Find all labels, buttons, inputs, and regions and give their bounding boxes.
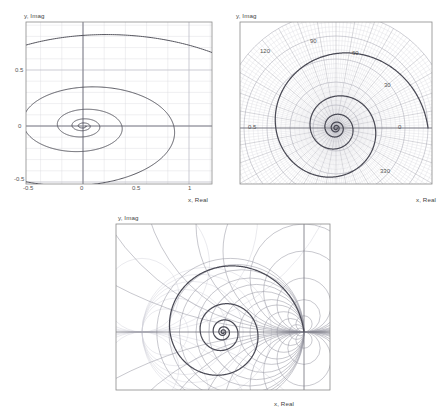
cartesian-minor-grid — [26, 22, 212, 184]
panel-cartesian: y, Imag x, Real 0.5 0 -0.5 -0.5 0 0.5 1 — [0, 0, 224, 210]
smith-plot-svg — [108, 208, 348, 415]
cartesian-ytick-1: 0 — [18, 123, 21, 129]
cartesian-xtick-0: -0.5 — [23, 185, 33, 191]
cartesian-plot-svg — [0, 0, 224, 210]
cartesian-ytick-2: -0.5 — [14, 176, 24, 182]
panel-smith: y, Imag x, Real — [108, 208, 348, 415]
cartesian-ytick-0: 0.5 — [15, 67, 23, 73]
panel-polar: y, Imag x, Real 120 90 60 30 0 330 0.5 — [224, 0, 448, 210]
polar-radial-label: 0.5 — [248, 124, 256, 130]
polar-plot-svg — [224, 0, 448, 210]
polar-angle-330: 330 — [380, 168, 390, 174]
polar-ylabel: y, Imag — [236, 12, 257, 19]
smith-xlabel: x, Real — [274, 400, 294, 407]
polar-angle-90: 90 — [310, 38, 317, 44]
polar-angle-120: 120 — [260, 48, 270, 54]
cartesian-xtick-1: 0 — [80, 185, 83, 191]
cartesian-xtick-3: 1 — [188, 185, 191, 191]
polar-angle-0: 0 — [398, 124, 401, 130]
cartesian-xtick-2: 0.5 — [132, 185, 140, 191]
smith-ylabel: y, Imag — [118, 214, 139, 221]
cartesian-ylabel: y, Imag — [24, 12, 45, 19]
polar-xlabel: x, Real — [416, 196, 436, 203]
cartesian-xlabel: x, Real — [188, 196, 208, 203]
polar-angle-60: 60 — [352, 50, 359, 56]
polar-angle-30: 30 — [384, 82, 391, 88]
